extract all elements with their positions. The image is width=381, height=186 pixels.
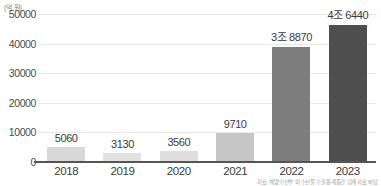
- y-axis-tick-label: 10000: [2, 126, 36, 138]
- bar-value-label: 9710: [207, 118, 263, 130]
- bar-group[interactable]: 3560: [151, 14, 207, 162]
- bar-value-label: 5060: [38, 132, 94, 144]
- bar-group[interactable]: 3조 8870: [263, 14, 319, 162]
- source-note: 자료: 해양수산부 외 수산물 수출통계중간 집계 자료 바탕: [257, 178, 378, 186]
- bar-group[interactable]: 9710: [207, 14, 263, 162]
- bar-value-label: 3130: [94, 138, 150, 150]
- x-axis-line: [34, 161, 376, 163]
- y-axis-tick-label: 0: [2, 156, 36, 168]
- y-axis: 01000020000300004000050000: [0, 14, 36, 162]
- bar[interactable]: [216, 133, 254, 162]
- bar-value-label: 3560: [151, 136, 207, 148]
- bar-group[interactable]: 3130: [94, 14, 150, 162]
- bar-group[interactable]: 4조 6440: [320, 14, 376, 162]
- x-axis-tick-label: 2019: [94, 165, 150, 177]
- x-axis-tick-label: 2021: [207, 165, 263, 177]
- x-axis-tick-label: 2022: [263, 165, 319, 177]
- bar-chart: (억 원) 01000020000300004000050000 5060313…: [0, 0, 381, 186]
- y-axis-tick-label: 40000: [2, 38, 36, 50]
- plot-area: 50603130356097103조 88704조 6440: [38, 14, 376, 162]
- bar[interactable]: [47, 147, 85, 162]
- y-axis-tick-label: 20000: [2, 97, 36, 109]
- bar[interactable]: [329, 25, 367, 162]
- bar[interactable]: [272, 47, 310, 162]
- y-axis-tick-label: 50000: [2, 8, 36, 20]
- bar-value-label: 3조 8870: [263, 28, 319, 44]
- x-axis-tick-label: 2023: [320, 165, 376, 177]
- y-axis-tick-label: 30000: [2, 67, 36, 79]
- bar-value-label: 4조 6440: [320, 6, 376, 22]
- x-axis-tick-label: 2020: [151, 165, 207, 177]
- bar-group[interactable]: 5060: [38, 14, 94, 162]
- x-axis-tick-label: 2018: [38, 165, 94, 177]
